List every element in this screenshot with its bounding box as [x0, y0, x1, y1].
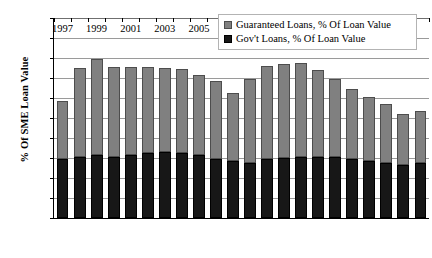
- bar-segment-government: [346, 159, 358, 218]
- y-tick-mark: [50, 98, 54, 99]
- bar-segment-guaranteed: [193, 75, 205, 155]
- bar-segment-guaranteed: [91, 59, 103, 155]
- x-tick-mark: [71, 18, 72, 22]
- bar-segment-guaranteed: [397, 114, 409, 165]
- bar-segment-guaranteed: [74, 68, 86, 157]
- bar-segment-guaranteed: [346, 89, 358, 158]
- bar-segment-government: [210, 159, 222, 218]
- bar-segment-government: [329, 157, 341, 218]
- bar-segment-government: [193, 155, 205, 218]
- x-tick-mark: [88, 18, 89, 22]
- bar-group: [108, 18, 120, 218]
- y-tick-mark: [50, 78, 54, 79]
- x-tick-mark: [54, 18, 55, 22]
- legend-swatch-government-icon: [224, 35, 232, 43]
- bar-segment-government: [295, 157, 307, 218]
- bar-segment-government: [142, 153, 154, 218]
- chart-legend: Guaranteed Loans, % Of Loan Value Gov't …: [218, 14, 417, 50]
- legend-item-guaranteed: Guaranteed Loans, % Of Loan Value: [224, 18, 412, 32]
- bar-segment-government: [261, 159, 273, 218]
- bar-segment-government: [74, 157, 86, 218]
- bar-group: [57, 18, 69, 218]
- bar-segment-guaranteed: [261, 66, 273, 159]
- bar-group: [159, 18, 171, 218]
- bar-segment-government: [380, 163, 392, 218]
- y-axis-title: % Of SME Loan Value: [19, 40, 30, 180]
- bar-segment-guaranteed: [295, 63, 307, 157]
- bar-segment-guaranteed: [159, 68, 171, 152]
- bar-segment-government: [159, 152, 171, 218]
- y-tick-mark: [50, 158, 54, 159]
- bar-group: [91, 18, 103, 218]
- bar-segment-government: [91, 155, 103, 218]
- bar-segment-government: [244, 163, 256, 218]
- bar-group: [142, 18, 154, 218]
- y-tick-mark: [50, 138, 54, 139]
- stacked-bar-chart: % Of SME Loan Value 0%3%6%9%12%15%18%21%…: [0, 0, 432, 258]
- x-tick-mark: [139, 18, 140, 22]
- bar-segment-government: [397, 165, 409, 218]
- bar-group: [193, 18, 205, 218]
- bar-group: [74, 18, 86, 218]
- bar-segment-guaranteed: [363, 97, 375, 160]
- bar-segment-government: [363, 161, 375, 218]
- y-tick-mark: [50, 198, 54, 199]
- y-tick-mark: [50, 58, 54, 59]
- bar-segment-government: [312, 157, 324, 218]
- bar-segment-guaranteed: [380, 104, 392, 163]
- y-tick-mark: [50, 38, 54, 39]
- bar-segment-government: [176, 153, 188, 218]
- bar-segment-guaranteed: [176, 69, 188, 153]
- bar-segment-guaranteed: [210, 81, 222, 158]
- bar-segment-government: [415, 163, 427, 218]
- legend-label-guaranteed: Guaranteed Loans, % Of Loan Value: [236, 20, 391, 31]
- bar-segment-guaranteed: [415, 111, 427, 162]
- bar-segment-government: [108, 157, 120, 218]
- bar-group: [176, 18, 188, 218]
- x-tick-mark: [156, 18, 157, 22]
- legend-label-government: Gov't Loans, % Of Loan Value: [236, 34, 365, 45]
- bar-segment-guaranteed: [278, 64, 290, 158]
- legend-item-government: Gov't Loans, % Of Loan Value: [224, 32, 412, 46]
- legend-swatch-guaranteed-icon: [224, 21, 232, 29]
- x-tick-mark: [122, 18, 123, 22]
- x-tick-mark: [173, 18, 174, 22]
- bar-segment-guaranteed: [108, 67, 120, 157]
- x-tick-mark: [105, 18, 106, 22]
- x-tick-mark: [207, 18, 208, 22]
- bar-segment-government: [57, 159, 69, 218]
- bar-segment-guaranteed: [244, 79, 256, 162]
- y-tick-mark: [50, 178, 54, 179]
- x-tick-mark: [429, 18, 430, 22]
- bar-segment-government: [227, 161, 239, 218]
- bar-segment-guaranteed: [227, 93, 239, 162]
- bar-segment-guaranteed: [142, 67, 154, 152]
- y-tick-mark: [50, 218, 54, 219]
- bar-segment-government: [125, 155, 137, 218]
- bar-segment-guaranteed: [329, 79, 341, 157]
- x-tick-mark: [190, 18, 191, 22]
- bar-group: [125, 18, 137, 218]
- bar-segment-guaranteed: [125, 67, 137, 154]
- y-tick-mark: [50, 118, 54, 119]
- bar-segment-government: [278, 158, 290, 218]
- bar-segment-guaranteed: [312, 70, 324, 157]
- bar-segment-guaranteed: [57, 101, 69, 158]
